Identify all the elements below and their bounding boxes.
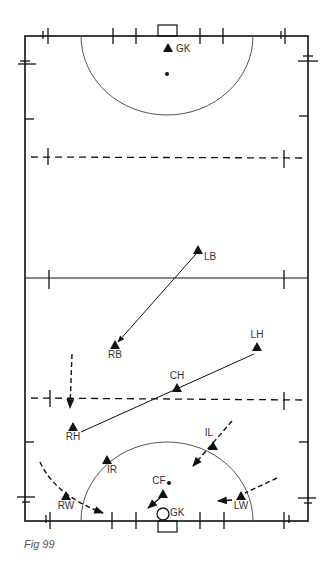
bottom-penalty-spot (167, 481, 171, 485)
pass-line-lh-rh (81, 354, 254, 432)
player-label: RB (108, 349, 122, 360)
top-25-dashed-line (31, 157, 305, 158)
player-marker-triangle-icon (252, 342, 262, 351)
movement-arrow-cf (148, 498, 160, 508)
player-label: CF (152, 475, 165, 486)
top-penalty-spot (165, 72, 169, 76)
player-marker-triangle-icon (158, 489, 168, 498)
movement-arrow-lw (245, 478, 277, 493)
player-label: RW (58, 500, 75, 511)
top-goal (158, 25, 177, 36)
player-lh: LH (251, 329, 264, 351)
player-cf: CF (152, 475, 168, 498)
player-label: GK (176, 43, 191, 54)
player-marker-triangle-icon (102, 455, 112, 464)
movement-arrow-lw-head (218, 500, 232, 501)
player-gk-bottom: GK (170, 507, 185, 518)
player-lb: LB (193, 245, 217, 262)
player-label: CH (170, 370, 184, 381)
player-rh: RH (66, 422, 80, 442)
player-label: IL (205, 427, 214, 438)
player-gk-top: GK (163, 43, 191, 54)
player-marker-triangle-icon (163, 43, 173, 52)
top-side-marks (18, 56, 318, 119)
player-marker-triangle-icon (68, 422, 78, 431)
figure-caption: Fig 99 (24, 538, 55, 550)
goalkeeper-bottom-circle (157, 508, 169, 520)
player-il: IL (205, 427, 218, 450)
player-label: LW (234, 500, 249, 511)
player-marker-triangle-icon (208, 441, 218, 450)
players-layer: GKLBRBLHCHRHILIRCFRWLWGK (58, 43, 264, 518)
bottom-25-dashed-line (31, 398, 305, 400)
player-lw: LW (234, 491, 249, 511)
player-marker-triangle-icon (61, 491, 71, 500)
bottom-goal (158, 521, 177, 532)
player-rw: RW (58, 491, 75, 511)
player-label: LB (204, 251, 217, 262)
player-label: LH (251, 329, 264, 340)
player-ch: CH (170, 370, 184, 392)
movement-arrow-rh (70, 354, 72, 408)
player-rb: RB (108, 340, 122, 360)
halfway-ticks (49, 270, 284, 289)
player-label: RH (66, 431, 80, 442)
player-label: GK (170, 507, 185, 518)
player-marker-triangle-icon (193, 245, 203, 254)
pass-line-lb-rb (118, 254, 196, 342)
player-marker-triangle-icon (236, 491, 246, 500)
player-label: IR (107, 464, 117, 475)
bottom-side-marks (17, 442, 316, 503)
hockey-field-diagram: GKLBRBLHCHRHILIRCFRWLWGK (0, 0, 335, 570)
